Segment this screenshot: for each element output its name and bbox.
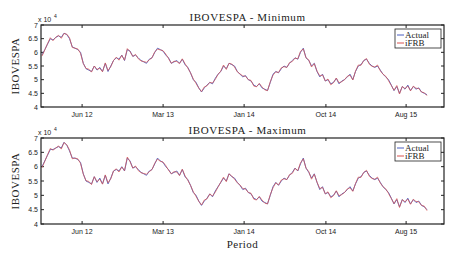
svg-text:4: 4 [54, 126, 57, 132]
y-tick-label: 4 [34, 221, 38, 228]
x-tick-label: Jan 14 [234, 228, 255, 235]
x-tick-label: Aug 15 [395, 111, 417, 119]
y-tick-label: 6.5 [28, 149, 38, 156]
legend-label: iFRB [405, 38, 425, 48]
y-multiplier: x 10 [38, 16, 51, 23]
y-tick-label: 6.5 [28, 35, 38, 42]
y-tick-label: 5 [34, 76, 38, 83]
plot-title: IBOVESPA - Maximum [189, 124, 307, 136]
x-tick-label: Jun 12 [72, 111, 93, 118]
series-ifrb [42, 34, 427, 96]
legend-label: iFRB [405, 151, 425, 161]
x-tick-label: Jun 12 [72, 228, 93, 235]
x-tick-label: Oct 14 [316, 228, 337, 235]
y-tick-label: 6 [34, 163, 38, 170]
y-tick-label: 7 [34, 22, 38, 29]
y-tick-label: 7 [34, 135, 38, 142]
subplot-maximum: IBOVESPA - Maximumx 104IBOVESPA44.555.56… [9, 124, 444, 250]
y-tick-label: 4 [34, 104, 38, 111]
x-tick-label: Mar 13 [152, 111, 174, 118]
x-axis-label: Period [227, 238, 259, 250]
legend: ActualiFRB [395, 142, 441, 161]
y-tick-label: 5.5 [28, 178, 38, 185]
axes-box [41, 25, 444, 107]
y-tick-label: 4.5 [28, 90, 38, 97]
y-tick-label: 4.5 [28, 206, 38, 213]
y-multiplier: x 10 [38, 129, 51, 136]
subplot-minimum: IBOVESPA - Minimumx 104IBOVESPA44.555.56… [9, 11, 444, 119]
legend: ActualiFRB [395, 29, 441, 48]
x-tick-label: Mar 13 [152, 228, 174, 235]
y-tick-label: 5.5 [28, 63, 38, 70]
x-tick-label: Aug 15 [395, 228, 417, 236]
series-ifrb [42, 143, 427, 211]
plot-title: IBOVESPA - Minimum [189, 11, 305, 23]
y-axis-label: IBOVESPA [9, 153, 21, 210]
y-tick-label: 6 [34, 49, 38, 56]
x-tick-label: Oct 14 [316, 111, 337, 118]
svg-text:4: 4 [54, 13, 57, 19]
y-tick-label: 5 [34, 192, 38, 199]
chart-canvas: IBOVESPA - Minimumx 104IBOVESPA44.555.56… [0, 0, 461, 258]
x-tick-label: Jan 14 [234, 111, 255, 118]
y-axis-label: IBOVESPA [9, 38, 21, 95]
